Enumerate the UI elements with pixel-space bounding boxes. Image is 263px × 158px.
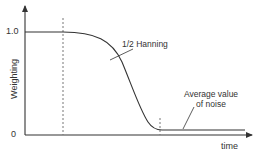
annotation-noise: Average value of noise [178, 89, 244, 109]
annotation-noise-line2: of noise [178, 99, 244, 109]
y-tick-0: 0 [11, 130, 16, 139]
annotation-hanning: 1/2 Hanning [122, 39, 168, 49]
y-axis-label: Weighting [9, 54, 19, 104]
x-axis-label: time [221, 142, 238, 151]
chart-canvas [0, 0, 263, 158]
noise-leader-line [183, 107, 194, 129]
y-tick-1.0: 1.0 [6, 27, 19, 36]
annotation-noise-line1: Average value [178, 89, 244, 99]
hanning-leader-line [110, 49, 133, 60]
